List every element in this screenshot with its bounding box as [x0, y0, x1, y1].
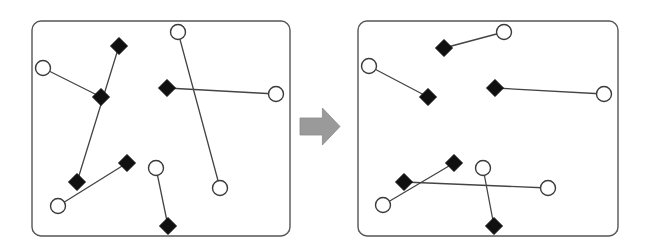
node-circle-L-c6[interactable]: [213, 181, 228, 196]
node-circle-L-c1[interactable]: [36, 61, 51, 76]
left-panel-frame: [32, 21, 290, 236]
matching-diagram: [0, 0, 647, 252]
node-circle-L-c5[interactable]: [149, 161, 164, 176]
right-arrow-icon: [300, 108, 340, 145]
node-circle-L-c4[interactable]: [51, 199, 66, 214]
right-panel: [358, 21, 618, 236]
left-panel: [32, 21, 290, 236]
node-circle-L-c3[interactable]: [269, 87, 284, 102]
node-circle-R-c1[interactable]: [362, 59, 377, 74]
node-circle-R-c6[interactable]: [541, 181, 556, 196]
arrow-layer: [300, 108, 340, 145]
node-circle-R-c3[interactable]: [597, 87, 612, 102]
right-panel-frame: [358, 21, 618, 236]
node-circle-R-c2[interactable]: [497, 25, 512, 40]
node-circle-R-c5[interactable]: [476, 161, 491, 176]
node-circle-L-c2[interactable]: [171, 25, 186, 40]
figure-root: [0, 0, 647, 252]
node-circle-R-c4[interactable]: [376, 198, 391, 213]
